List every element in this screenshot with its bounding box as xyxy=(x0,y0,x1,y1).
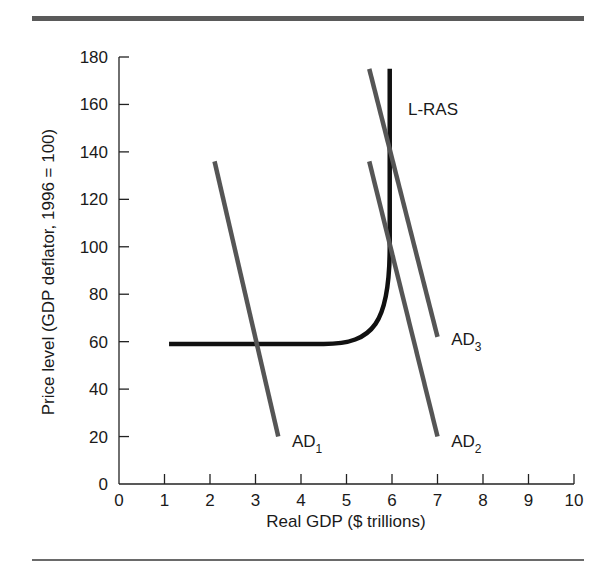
x-axis-title: Real GDP ($ trillions) xyxy=(266,512,425,531)
y-tick-label: 0 xyxy=(99,475,108,494)
x-tick-label: 10 xyxy=(565,491,584,510)
x-tick-label: 1 xyxy=(160,491,169,510)
ad2-label: AD2 xyxy=(451,432,482,456)
ad1-label: AD1 xyxy=(292,432,323,456)
l-ras-label: L-RAS xyxy=(408,100,458,119)
x-tick-label: 3 xyxy=(251,491,260,510)
y-tick-label: 20 xyxy=(89,428,108,447)
y-tick-label: 100 xyxy=(80,238,108,257)
x-tick-label: 6 xyxy=(387,491,396,510)
chart: 020406080100120140160180012345678910 L-R… xyxy=(0,0,616,573)
y-tick-label: 120 xyxy=(80,190,108,209)
curves xyxy=(169,69,437,437)
x-tick-label: 0 xyxy=(114,491,123,510)
ad1-curve xyxy=(215,161,279,436)
y-tick-label: 140 xyxy=(80,143,108,162)
y-axis-title: Price level (GDP deflator, 1996 = 100) xyxy=(39,129,58,416)
x-tick-label: 8 xyxy=(478,491,487,510)
y-tick-label: 80 xyxy=(89,285,108,304)
x-tick-label: 7 xyxy=(433,491,442,510)
y-tick-label: 60 xyxy=(89,333,108,352)
bottom-rule xyxy=(32,559,584,561)
l-ras-curve xyxy=(169,69,390,344)
x-tick-label: 5 xyxy=(342,491,351,510)
ad3-label: AD3 xyxy=(451,330,482,354)
axes: 020406080100120140160180012345678910 xyxy=(80,48,584,510)
y-tick-label: 40 xyxy=(89,380,108,399)
x-tick-label: 4 xyxy=(296,491,305,510)
y-tick-label: 160 xyxy=(80,95,108,114)
x-tick-label: 9 xyxy=(524,491,533,510)
x-tick-label: 2 xyxy=(205,491,214,510)
y-tick-label: 180 xyxy=(80,48,108,67)
